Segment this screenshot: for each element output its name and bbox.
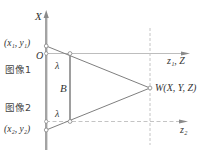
lambda-top-label: λ [55,61,59,71]
image2-label: 图像2 [5,103,31,113]
image2-point-label: (x₂, y₂) [4,125,30,135]
ray-image2-to-w [46,88,150,130]
image1-label: 图像1 [5,65,31,75]
origin-label: O [36,51,43,61]
x-axis-label: X [35,11,42,22]
x-axis-arrow-icon [44,10,49,18]
lens1-marker [68,52,72,56]
baseline-label: B [60,83,67,94]
image1-point-marker [44,44,48,48]
lens2-marker [68,120,72,124]
world-point-label: W(X, Y, Z) [155,83,196,93]
origin-marker [45,52,48,55]
z1-axis-label: z₁, Z [167,56,185,66]
z2-axis-arrow-icon [179,120,188,124]
image2-origin-marker [45,120,48,123]
z2-axis-label: z₂ [180,125,187,135]
baseline-bar [69,53,71,122]
image2-point-marker [44,128,48,132]
image1-point-label: (x₁, y₁) [4,39,30,49]
lambda-bottom-label: λ [55,109,59,119]
world-point-marker [148,86,152,90]
